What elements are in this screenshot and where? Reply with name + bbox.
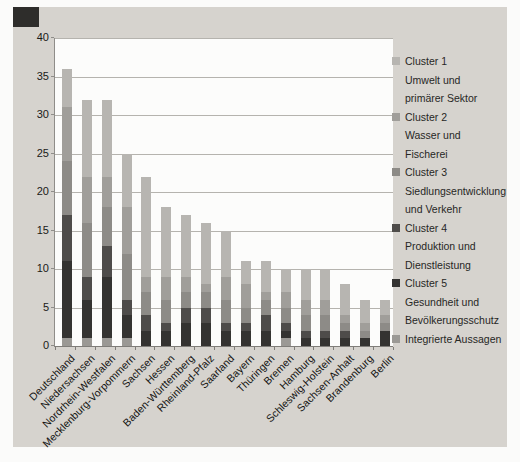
bar-segment-cluster-2 <box>221 277 231 300</box>
legend-label-line: Fischerei <box>392 145 506 164</box>
bar-segment-cluster-3 <box>62 161 72 215</box>
legend-label: Cluster 3 <box>405 163 447 182</box>
bar-segment-cluster-3 <box>360 331 370 339</box>
legend-label-line: und Verkehr <box>392 200 506 219</box>
bar-segment-cluster-4 <box>320 331 330 339</box>
bar-segment-cluster-4 <box>82 277 92 300</box>
x-tickmark <box>75 347 76 350</box>
bar-segment-cluster-5 <box>380 331 390 346</box>
legend-item-cluster-1: Cluster 1Umwelt undprimärer Sektor <box>392 52 506 108</box>
bar-saarland <box>221 38 231 346</box>
x-tickmark <box>234 347 235 350</box>
bar-segment-cluster-2 <box>320 300 330 315</box>
bar-segment-cluster-2 <box>261 292 271 300</box>
bar-segment-cluster-3 <box>161 300 171 323</box>
bar-segment-cluster-5 <box>161 331 171 346</box>
bar-segment-cluster-4 <box>62 215 72 261</box>
x-tickmark <box>55 347 56 350</box>
legend-label: Cluster 4 <box>405 219 447 238</box>
bar-segment-cluster-2 <box>241 284 251 307</box>
bar-segment-cluster-4 <box>102 246 112 277</box>
bar-segment-cluster-5 <box>141 331 151 346</box>
bar-segment-cluster-1 <box>360 300 370 323</box>
bar-segment-cluster-1 <box>82 100 92 177</box>
bar-schleswig-holstein <box>320 38 330 346</box>
bar-baden-w-rttemberg <box>181 38 191 346</box>
y-tick-label: 10 <box>17 262 49 274</box>
bar-segment-cluster-4 <box>281 323 291 331</box>
x-tickmark <box>254 347 255 350</box>
bar-segment-cluster-5 <box>102 277 112 339</box>
legend-label: Cluster 5 <box>405 274 447 293</box>
bar-rheinland-pfalz <box>201 38 211 346</box>
legend-swatch <box>392 57 400 65</box>
legend-label-line: primärer Sektor <box>392 89 506 108</box>
bar-segment-cluster-4 <box>122 300 132 315</box>
bar-segment-cluster-1 <box>320 269 330 300</box>
bar-segment-cluster-2 <box>62 107 72 161</box>
y-tick-label: 35 <box>17 70 49 82</box>
bar-segment-cluster-3 <box>82 223 92 277</box>
bar-segment-cluster-1 <box>281 269 291 292</box>
bar-hessen <box>161 38 171 346</box>
y-tickmark <box>51 230 54 231</box>
bar-segment-cluster-1 <box>380 300 390 315</box>
bar-segment-cluster-2 <box>380 315 390 323</box>
bar-segment-cluster-1 <box>221 231 231 277</box>
legend-label-line: Gesundheit und <box>392 293 506 312</box>
bar-segment-cluster-5 <box>181 323 191 346</box>
bar-segment-cluster-3 <box>261 300 271 315</box>
bar-segment-cluster-1 <box>261 261 271 292</box>
bar-segment-cluster-2 <box>340 315 350 323</box>
bar-segment-cluster-2 <box>161 277 171 300</box>
bar-segment-cluster-4 <box>261 315 271 330</box>
bar-segment-cluster-4 <box>301 331 311 339</box>
legend-item-integrierte-aussagen: Integrierte Aussagen <box>392 330 506 349</box>
bar-segment-cluster-1 <box>141 177 151 277</box>
bar-sachsen-anhalt <box>340 38 350 346</box>
bar-segment-cluster-3 <box>141 292 151 315</box>
y-tickmark <box>51 307 54 308</box>
bar-segment-cluster-2 <box>141 277 151 292</box>
y-tick-label: 25 <box>17 147 49 159</box>
bar-segment-integrierte-aussagen <box>122 338 132 346</box>
bar-segment-cluster-3 <box>281 308 291 323</box>
bar-segment-cluster-2 <box>281 292 291 307</box>
bar-segment-cluster-3 <box>241 308 251 323</box>
x-tickmark <box>333 347 334 350</box>
bar-segment-cluster-1 <box>122 154 132 208</box>
bar-segment-cluster-5 <box>261 331 271 346</box>
x-tickmark <box>214 347 215 350</box>
legend-label-line: Siedlungsentwicklung <box>392 182 506 201</box>
y-tick-label: 5 <box>17 301 49 313</box>
bar-segment-cluster-3 <box>221 300 231 323</box>
bar-berlin <box>380 38 390 346</box>
legend-label-line: Bevölkerungsschutz <box>392 311 506 330</box>
y-tickmark <box>51 76 54 77</box>
bar-segment-cluster-1 <box>340 284 350 315</box>
x-tickmark <box>135 347 136 350</box>
bar-segment-cluster-3 <box>201 292 211 307</box>
x-tickmark <box>294 347 295 350</box>
bar-segment-cluster-2 <box>301 300 311 315</box>
bar-segment-cluster-5 <box>301 338 311 346</box>
bar-segment-cluster-3 <box>301 315 311 330</box>
x-tickmark <box>194 347 195 350</box>
y-tickmark <box>51 37 54 38</box>
bar-segment-cluster-5 <box>201 323 211 346</box>
x-tickmark <box>274 347 275 350</box>
bar-segment-cluster-1 <box>301 269 311 300</box>
legend-swatch <box>392 168 400 176</box>
bar-segment-cluster-1 <box>241 261 251 284</box>
bar-segment-cluster-2 <box>122 207 132 253</box>
legend-label-line: Dienstleistung <box>392 256 506 275</box>
y-tickmark <box>51 153 54 154</box>
x-tickmark <box>115 347 116 350</box>
bar-segment-cluster-3 <box>122 254 132 300</box>
figure-background: 0510152025303540 DeutschlandNiedersachse… <box>13 7 507 447</box>
bar-segment-cluster-4 <box>181 308 191 323</box>
bar-segment-cluster-5 <box>62 261 72 338</box>
bar-segment-cluster-5 <box>340 338 350 346</box>
bar-segment-cluster-5 <box>221 331 231 346</box>
bar-segment-cluster-3 <box>181 292 191 307</box>
